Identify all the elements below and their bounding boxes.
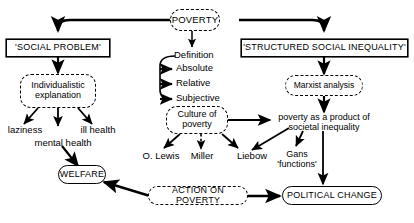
node-laziness[interactable]: laziness <box>1 124 49 137</box>
poverty-concept-map: POVERTY 'SOCIAL PROBLEM' 'STRUCTURED SOC… <box>0 0 414 223</box>
node-poverty[interactable]: POVERTY <box>170 9 220 31</box>
node-social-problem[interactable]: 'SOCIAL PROBLEM' <box>6 39 110 57</box>
edge-culture-to-o-lewis <box>164 134 180 148</box>
edge-culture-to-liebow <box>222 134 238 148</box>
edge-action-to-welfare <box>104 182 150 196</box>
node-gans-functions[interactable]: Gans 'functions' <box>275 148 319 172</box>
node-individualistic-explanation[interactable]: Individualistic explanation <box>20 74 96 108</box>
edge-poverty-to-structured-inequality <box>239 20 324 31</box>
node-relative[interactable]: Relative <box>176 77 230 90</box>
node-definition[interactable]: Definition <box>174 49 228 62</box>
node-ill-health[interactable]: ill health <box>74 124 122 137</box>
node-mental-health[interactable]: mental health <box>28 137 98 150</box>
node-absolute[interactable]: Absolute <box>176 62 230 75</box>
edge-definition-bracket <box>160 56 175 99</box>
node-poverty-as-product[interactable]: poverty as a product of societal inequal… <box>272 112 376 134</box>
node-welfare[interactable]: WELFARE <box>58 165 106 184</box>
node-subjective[interactable]: Subjective <box>176 92 234 105</box>
edge-poverty-to-social-problem <box>58 20 176 31</box>
edge-individualistic-to-ill-health <box>78 108 92 124</box>
node-marxist-analysis[interactable]: Marxist analysis <box>285 75 363 96</box>
edge-individualistic-to-laziness <box>24 108 38 124</box>
node-miller[interactable]: Miller <box>181 150 223 163</box>
node-liebow[interactable]: Liebow <box>228 150 276 163</box>
node-structured-social-inequality[interactable]: 'STRUCTURED SOCIAL INEQUALITY' <box>241 39 408 57</box>
node-culture-of-poverty[interactable]: Culture of poverty <box>166 106 228 134</box>
node-action-on-poverty[interactable]: ACTION ON POVERTY <box>148 186 248 205</box>
node-o-lewis[interactable]: O. Lewis <box>134 150 188 163</box>
node-political-change[interactable]: POLITICAL CHANGE <box>282 186 382 205</box>
